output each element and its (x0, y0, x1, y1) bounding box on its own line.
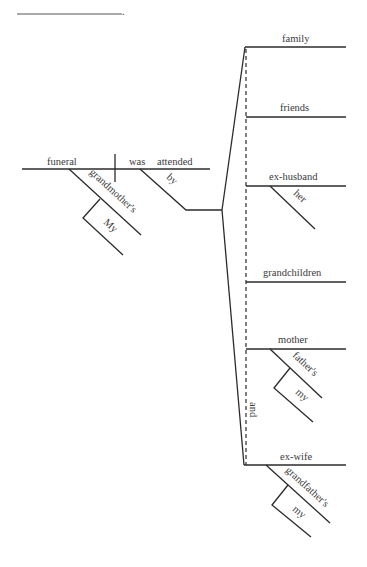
object-ex-wife: ex-wife grandfather's my (244, 451, 346, 537)
object-mother: mother father's my (246, 334, 346, 422)
object-word: family (282, 33, 310, 44)
main-clause: funeral was attended (22, 154, 210, 182)
subject-modifier: grandmother's My (69, 166, 141, 255)
object-word: mother (278, 334, 308, 345)
terminal-period: . (122, 6, 125, 17)
object-grandchildren: grandchildren (246, 267, 346, 282)
object-family: family (245, 33, 346, 47)
preposition-word: by (165, 171, 181, 187)
object-word: ex-wife (280, 451, 312, 462)
modifier-word: grandmother's (88, 166, 139, 214)
object-word: grandchildren (263, 267, 322, 278)
prepositional-phrase: by and (140, 47, 259, 465)
verb-word: attended (157, 156, 193, 167)
fork-lower (222, 210, 244, 465)
answer-blank: . (17, 6, 125, 17)
sentence-diagram: . funeral was attended grandmother's My … (0, 0, 367, 567)
object-ex-husband: ex-husband her (246, 171, 346, 229)
sub-modifier-word: my (291, 503, 309, 521)
sub-modifier-word: My (102, 216, 121, 234)
modifier-line (270, 186, 315, 229)
object-word: ex-husband (269, 171, 318, 182)
conjunction-word: and (248, 402, 259, 418)
subject-word: funeral (47, 156, 77, 167)
preposition-line (140, 169, 222, 210)
sub-modifier-word: my (294, 386, 312, 404)
object-friends: friends (246, 102, 346, 117)
fork-upper (222, 47, 245, 210)
modifier-word: her (292, 187, 310, 205)
helper-verb-word: was (129, 156, 145, 167)
modifier-word: father's (291, 349, 321, 378)
object-word: friends (280, 102, 309, 113)
